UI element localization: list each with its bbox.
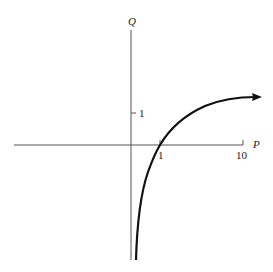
log-curve-chart — [0, 0, 273, 272]
y-axis-label: Q — [128, 16, 136, 27]
x-axis-label: P — [253, 139, 260, 150]
arrowhead-icon — [252, 93, 262, 101]
x-tick-label-10: 10 — [236, 150, 247, 161]
y-tick-label-1: 1 — [139, 108, 145, 119]
x-tick-label-1: 1 — [158, 150, 164, 161]
log-curve — [136, 97, 256, 260]
